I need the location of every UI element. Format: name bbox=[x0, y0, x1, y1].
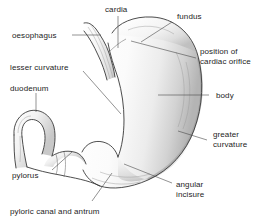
stomach-illustration bbox=[14, 17, 202, 188]
label-lesser-curvature: lesser curvature bbox=[10, 63, 69, 72]
label-pyloric-canal-and-antrum: pyloric canal and antrum bbox=[10, 207, 100, 216]
stomach-anatomy-figure: cardia fundus oesophagus position of car… bbox=[0, 0, 266, 224]
label-greater-curvature-line1: greater bbox=[213, 130, 239, 139]
label-greater-curvature-line2: curvature bbox=[213, 140, 248, 149]
label-angular-incisure-line1: angular bbox=[176, 180, 204, 189]
label-pylorus: pylorus bbox=[12, 171, 39, 180]
label-body: body bbox=[216, 91, 234, 100]
label-cardiac-orifice-line2: cardiac orifice bbox=[200, 57, 251, 66]
label-cardia: cardia bbox=[105, 5, 128, 14]
leader-lesser-curvature bbox=[83, 71, 121, 114]
label-fundus: fundus bbox=[177, 12, 202, 21]
duodenum-outline-inner bbox=[22, 119, 45, 154]
label-angular-incisure-line2: incisure bbox=[176, 190, 205, 199]
label-duodenum: duodenum bbox=[10, 84, 49, 93]
label-cardiac-orifice-line1: position of bbox=[200, 47, 238, 56]
label-oesophagus: oesophagus bbox=[12, 31, 57, 40]
